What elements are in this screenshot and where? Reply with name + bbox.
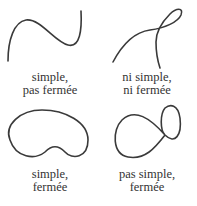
non-simple-open-curve (113, 9, 182, 68)
non-simple-closed-curve (115, 106, 180, 158)
label-simple-closed: simple, fermée (0, 168, 100, 194)
label-simple-open: simple, pas fermée (0, 71, 100, 97)
simple-closed-curve (9, 110, 88, 156)
label-non-simple-open: ni simple, ni fermée (97, 71, 197, 97)
label-line-2: fermée (97, 181, 197, 194)
label-non-simple-closed: pas simple, fermée (97, 168, 197, 194)
simple-open-curve (8, 11, 81, 61)
label-line-2: pas fermée (0, 84, 100, 97)
label-line-2: ni fermée (97, 84, 197, 97)
label-line-2: fermée (0, 181, 100, 194)
